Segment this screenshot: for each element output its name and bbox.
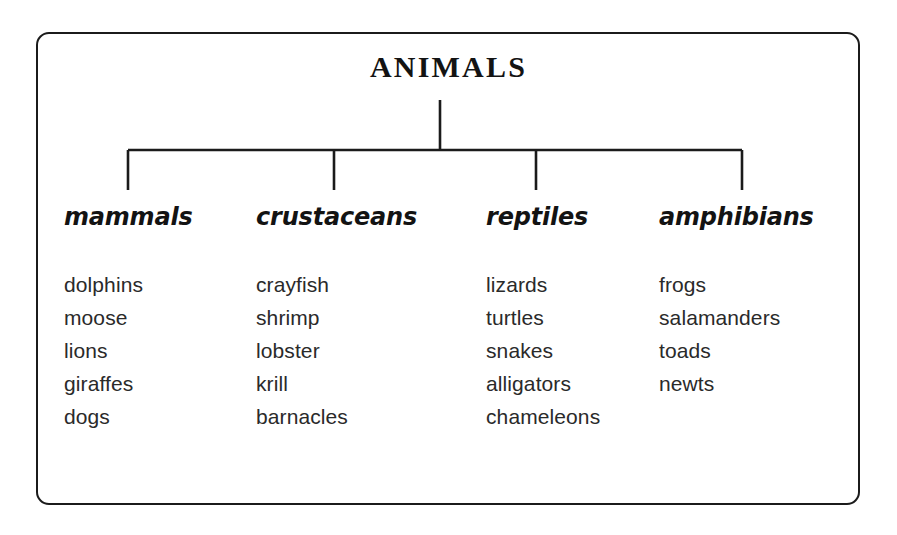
category-column-crustaceans: crustaceans crayfish shrimp lobster kril… (256, 203, 417, 433)
category-list-amphibians: frogs salamanders toads newts (659, 268, 814, 400)
list-item: snakes (486, 334, 600, 367)
list-item: lions (64, 334, 193, 367)
list-item: barnacles (256, 400, 417, 433)
category-header-amphibians: amphibians (659, 203, 814, 231)
list-item: giraffes (64, 367, 193, 400)
category-column-reptiles: reptiles lizards turtles snakes alligato… (486, 203, 600, 433)
category-column-mammals: mammals dolphins moose lions giraffes do… (64, 203, 193, 433)
category-list-mammals: dolphins moose lions giraffes dogs (64, 268, 193, 433)
list-item: turtles (486, 301, 600, 334)
category-column-amphibians: amphibians frogs salamanders toads newts (659, 203, 814, 400)
list-item: salamanders (659, 301, 814, 334)
list-item: lizards (486, 268, 600, 301)
list-item: crayfish (256, 268, 417, 301)
list-item: lobster (256, 334, 417, 367)
list-item: dogs (64, 400, 193, 433)
list-item: chameleons (486, 400, 600, 433)
category-list-reptiles: lizards turtles snakes alligators chamel… (486, 268, 600, 433)
list-item: moose (64, 301, 193, 334)
list-item: alligators (486, 367, 600, 400)
list-item: shrimp (256, 301, 417, 334)
diagram-title: ANIMALS (0, 50, 897, 84)
list-item: dolphins (64, 268, 193, 301)
category-header-crustaceans: crustaceans (256, 203, 417, 231)
list-item: krill (256, 367, 417, 400)
list-item: newts (659, 367, 814, 400)
category-list-crustaceans: crayfish shrimp lobster krill barnacles (256, 268, 417, 433)
category-header-mammals: mammals (64, 203, 193, 231)
category-header-reptiles: reptiles (486, 203, 600, 231)
list-item: frogs (659, 268, 814, 301)
list-item: toads (659, 334, 814, 367)
diagram-canvas: ANIMALS mammals dolphins moose lions gir… (0, 0, 897, 535)
